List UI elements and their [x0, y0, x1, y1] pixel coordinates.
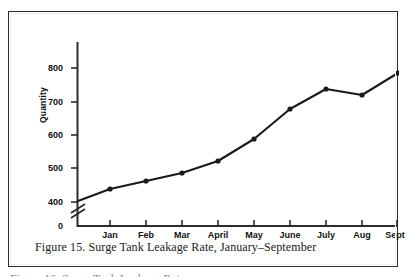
- y-axis-title: Quantity: [38, 65, 48, 145]
- x-tick-label-june: June: [279, 230, 300, 240]
- x-tick-label-aug: Aug: [353, 230, 371, 240]
- figure-caption: Figure 15. Surge Tank Leakage Rate, Janu…: [35, 240, 316, 255]
- chart-plot-area: 800 700 600 500 400 0 Quantity Jan Feb M…: [9, 12, 399, 230]
- x-tick-label-july: July: [317, 230, 335, 240]
- x-tick-label-april: April: [208, 230, 229, 240]
- x-tick-label-feb: Feb: [138, 230, 154, 240]
- x-tick-label-sept: Sept: [385, 230, 405, 240]
- data-point-jan: [107, 186, 112, 191]
- clipped-next-line-text: Figure 16. Surge Tank Leakage Rate: [10, 272, 310, 277]
- line-chart-svg: [9, 12, 399, 230]
- y-tick-label-0: 0: [29, 221, 63, 231]
- x-tick-label-may: May: [245, 230, 263, 240]
- data-point-markers: [107, 70, 399, 191]
- data-point-aug: [359, 92, 364, 97]
- data-point-june: [287, 106, 292, 111]
- data-point-feb: [143, 178, 148, 183]
- data-point-may: [251, 136, 256, 141]
- data-point-april: [215, 158, 220, 163]
- data-series-line: [78, 73, 398, 201]
- x-tick-label-mar: Mar: [174, 230, 190, 240]
- figure-frame: 800 700 600 500 400 0 Quantity Jan Feb M…: [8, 11, 398, 267]
- y-tick-label-500: 500: [29, 163, 63, 173]
- data-point-july: [323, 86, 328, 91]
- y-tick-label-400: 400: [29, 197, 63, 207]
- data-point-mar: [179, 170, 184, 175]
- x-tick-label-jan: Jan: [102, 230, 118, 240]
